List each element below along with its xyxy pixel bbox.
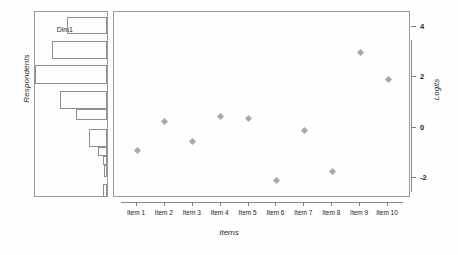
- histogram-bar: [104, 165, 107, 177]
- data-point: [245, 115, 252, 122]
- histogram-bar: [103, 184, 107, 197]
- x-axis-tick-label: Item 3: [183, 209, 201, 216]
- y-axis-tick-label: 4: [420, 22, 424, 31]
- data-point: [161, 118, 168, 125]
- data-point: [357, 49, 364, 56]
- histogram-bar: [35, 65, 107, 84]
- histogram-bar: [60, 91, 107, 109]
- x-axis-tick-label: Item 5: [239, 209, 257, 216]
- histogram-bar: [103, 156, 107, 165]
- x-axis-tick: [387, 202, 388, 206]
- y-axis-tick: [411, 177, 416, 178]
- x-axis-tick-label: Item 1: [127, 209, 145, 216]
- x-axis-tick: [275, 202, 276, 206]
- y-axis-line: [411, 40, 412, 192]
- data-point: [273, 177, 280, 184]
- y-axis-tick-label: 2: [420, 72, 424, 81]
- histogram-bar: [98, 147, 107, 156]
- x-axis-tick: [136, 202, 137, 206]
- y-axis-tick: [411, 127, 416, 128]
- y-axis-tick-label: -2: [420, 172, 427, 181]
- x-axis-tick-label: Item 4: [211, 209, 229, 216]
- items-axis-label: Items: [0, 228, 458, 237]
- wright-map-figure: Respondents Dim1 Logits Items Item 1Item…: [0, 0, 458, 255]
- histogram-bar: [76, 109, 107, 120]
- data-point: [301, 127, 308, 134]
- data-point: [189, 138, 196, 145]
- x-axis-tick: [331, 202, 332, 206]
- y-axis-tick: [411, 76, 416, 77]
- x-axis-tick: [220, 202, 221, 206]
- x-axis-tick-label: Item 9: [350, 209, 368, 216]
- data-point: [384, 76, 391, 83]
- x-axis-tick: [303, 202, 304, 206]
- logits-axis-label: Logits: [432, 68, 441, 112]
- data-point: [217, 113, 224, 120]
- y-axis-tick-label: 0: [420, 122, 424, 131]
- x-axis-tick: [192, 202, 193, 206]
- respondents-axis-label: Respondents: [22, 49, 31, 109]
- x-axis-tick: [164, 202, 165, 206]
- x-axis-tick-label: Item 7: [294, 209, 312, 216]
- x-axis-tick-label: Item 6: [266, 209, 284, 216]
- data-point: [329, 168, 336, 175]
- histogram-bar: [89, 129, 107, 147]
- x-axis-tick-label: Item 10: [376, 209, 398, 216]
- histogram-bar: [52, 41, 107, 59]
- respondents-histogram-panel: Dim1: [34, 11, 108, 197]
- x-axis-tick-label: Item 8: [322, 209, 340, 216]
- x-axis-tick: [248, 202, 249, 206]
- x-axis-tick: [359, 202, 360, 206]
- y-axis-tick: [411, 26, 416, 27]
- histogram-bar: [67, 17, 107, 34]
- items-scatter-panel: [113, 11, 410, 197]
- data-point: [133, 147, 140, 154]
- x-axis-tick-label: Item 2: [155, 209, 173, 216]
